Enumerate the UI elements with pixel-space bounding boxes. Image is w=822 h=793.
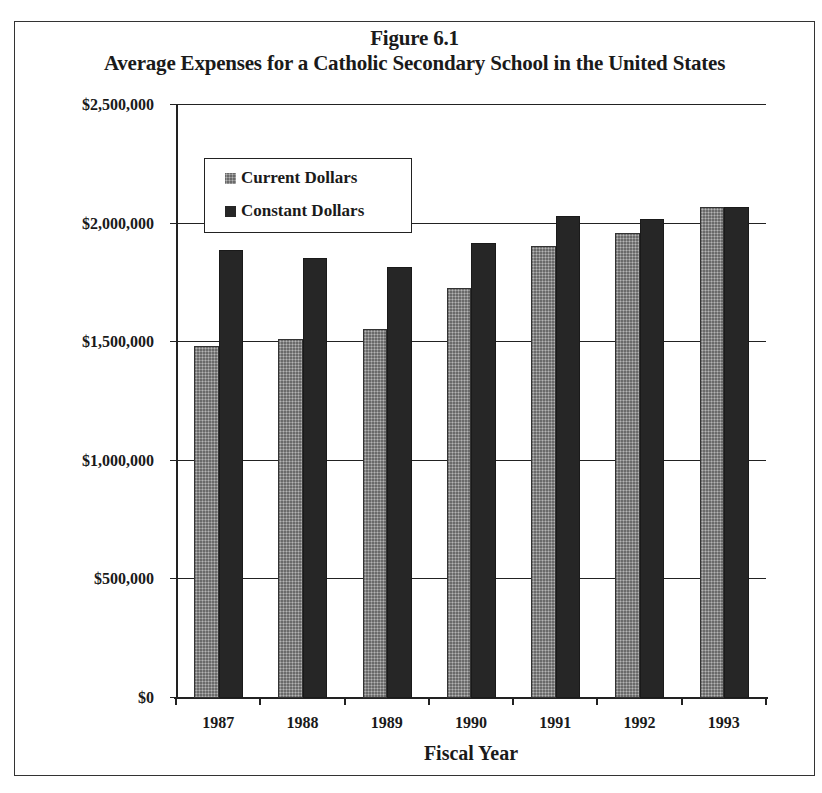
legend-label: Constant Dollars [241,201,364,221]
x-tick [259,697,261,705]
y-tick-label: $500,000 [94,570,154,588]
x-tick-label: 1988 [260,714,344,732]
y-tick-label: $2,500,000 [82,96,154,114]
bar-current-1991 [531,246,556,698]
bar-constant-1992 [640,219,665,698]
y-tick-label: $1,000,000 [82,452,154,470]
figure-label: Figure 6.1 [14,26,815,51]
y-tick [170,223,176,224]
bar-constant-1989 [387,267,412,698]
figure-frame [14,21,815,776]
x-tick [175,697,177,705]
legend-item-constant: Constant Dollars [225,201,364,221]
y-axis [176,105,178,699]
bar-current-1990 [447,288,472,698]
x-tick-label: 1989 [345,714,429,732]
bar-current-1993 [700,207,725,698]
x-axis-title: Fiscal Year [174,742,768,765]
x-tick [344,697,346,705]
legend-swatch-constant [225,206,236,217]
x-tick [512,697,514,705]
gridline [176,104,766,105]
bar-current-1987 [194,346,219,698]
bar-current-1989 [363,329,388,698]
x-tick [681,697,683,705]
bar-constant-1993 [724,207,749,698]
chart-title: Average Expenses for a Catholic Secondar… [14,51,815,76]
x-tick-label: 1992 [597,714,681,732]
legend-label: Current Dollars [241,168,357,188]
x-tick [765,697,767,705]
legend-swatch-current [225,173,236,184]
bar-constant-1987 [219,250,244,698]
bar-current-1988 [278,339,303,698]
x-tick-label: 1991 [513,714,597,732]
y-tick-label: $1,500,000 [82,333,154,351]
y-tick [170,341,176,342]
x-tick [596,697,598,705]
x-tick [428,697,430,705]
y-tick [170,104,176,105]
bar-current-1992 [615,233,640,698]
bar-constant-1991 [556,216,581,698]
x-tick-label: 1987 [176,714,260,732]
y-tick [170,460,176,461]
y-tick-label: $0 [138,689,154,707]
x-tick-label: 1993 [682,714,766,732]
legend: Current Dollars Constant Dollars [204,158,412,233]
bar-constant-1990 [471,243,496,698]
bar-constant-1988 [303,258,328,698]
y-tick [170,578,176,579]
y-tick-label: $2,000,000 [82,215,154,233]
legend-item-current: Current Dollars [225,168,357,188]
x-tick-label: 1990 [429,714,513,732]
